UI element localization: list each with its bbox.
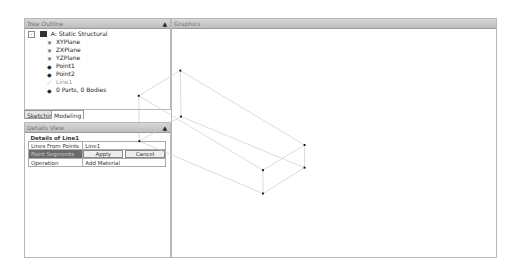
graphics-panel[interactable]: Graphics xyxy=(171,18,497,258)
box-wireframe xyxy=(139,71,305,194)
graphics-canvas[interactable] xyxy=(0,1,326,241)
